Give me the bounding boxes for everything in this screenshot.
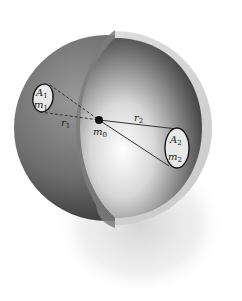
point-mass-m0 [95, 116, 103, 124]
spherical-shell-diagram: A1 m1 r1 m0 r2 A2 m2 [0, 0, 242, 301]
